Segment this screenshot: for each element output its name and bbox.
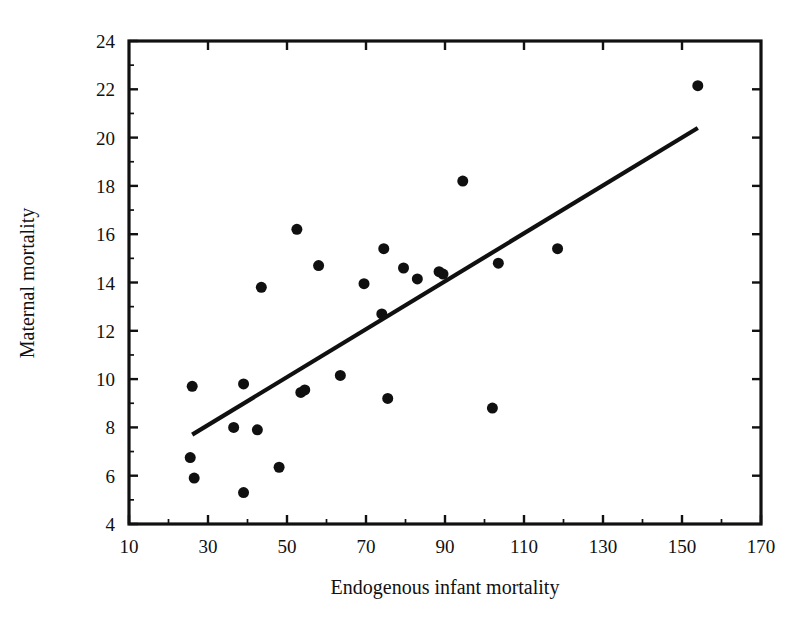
- x-axis-tick-labels: 1030507090110130150170: [120, 536, 776, 557]
- y-tick-label: 16: [96, 224, 115, 245]
- data-point: [274, 462, 285, 473]
- regression-line: [192, 128, 698, 435]
- y-axis-title: Maternal mortality: [16, 208, 39, 359]
- y-axis-tick-labels: 4681012141618202224: [96, 31, 116, 535]
- data-point: [487, 403, 498, 414]
- x-axis-title: Endogenous infant mortality: [331, 576, 560, 599]
- data-point: [438, 269, 449, 280]
- data-point: [457, 176, 468, 187]
- figure-container: 1030507090110130150170 46810121416182022…: [0, 0, 800, 620]
- y-tick-label: 4: [106, 514, 116, 535]
- data-point: [692, 80, 703, 91]
- x-tick-label: 10: [120, 536, 139, 557]
- y-tick-label: 6: [106, 466, 116, 487]
- x-tick-label: 110: [510, 536, 538, 557]
- data-point: [256, 282, 267, 293]
- y-tick-label: 22: [96, 79, 115, 100]
- x-tick-label: 130: [589, 536, 618, 557]
- data-point: [189, 473, 200, 484]
- data-point: [552, 243, 563, 254]
- x-tick-label: 50: [278, 536, 297, 557]
- trend-line: [192, 128, 698, 435]
- y-tick-label: 8: [106, 417, 116, 438]
- data-point: [238, 378, 249, 389]
- scatter-plot: 1030507090110130150170 46810121416182022…: [0, 0, 800, 620]
- data-point: [252, 424, 263, 435]
- y-tick-label: 20: [96, 128, 115, 149]
- data-point: [185, 452, 196, 463]
- data-point: [313, 260, 324, 271]
- data-point: [493, 258, 504, 269]
- data-point: [412, 273, 423, 284]
- data-point: [376, 308, 387, 319]
- x-tick-label: 30: [199, 536, 218, 557]
- x-tick-label: 170: [747, 536, 776, 557]
- y-tick-label: 10: [96, 369, 115, 390]
- data-points: [185, 80, 704, 498]
- data-point: [398, 263, 409, 274]
- data-point: [238, 487, 249, 498]
- y-tick-label: 18: [96, 176, 115, 197]
- x-tick-label: 150: [668, 536, 697, 557]
- x-tick-label: 90: [436, 536, 455, 557]
- y-tick-label: 14: [96, 273, 116, 294]
- data-point: [228, 422, 239, 433]
- y-tick-label: 12: [96, 321, 115, 342]
- data-point: [359, 278, 370, 289]
- x-tick-label: 70: [357, 536, 376, 557]
- data-point: [291, 224, 302, 235]
- y-tick-label: 24: [96, 31, 116, 52]
- data-point: [335, 370, 346, 381]
- data-point: [382, 393, 393, 404]
- data-point: [187, 381, 198, 392]
- data-point: [378, 243, 389, 254]
- data-point: [299, 384, 310, 395]
